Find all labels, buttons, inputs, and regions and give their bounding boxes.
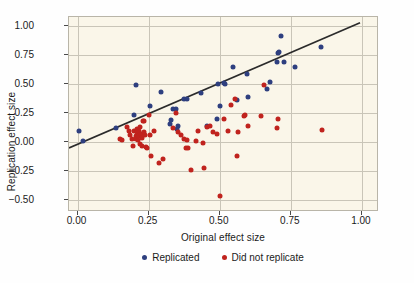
data-point-did-not-replicate (233, 96, 238, 101)
data-point-replicated (264, 86, 269, 91)
legend-dot-did-not-replicate-icon (222, 255, 227, 260)
x-tick-label: 0.50 (196, 215, 242, 226)
data-point-did-not-replicate (200, 140, 205, 145)
data-point-replicated (185, 96, 190, 101)
scatter-plot-figure: Replication effect size 1.000.750.500.25… (0, 0, 414, 283)
x-tick-label: 1.00 (338, 215, 384, 226)
data-point-replicated (244, 71, 249, 76)
data-point-replicated (81, 138, 86, 143)
data-point-did-not-replicate (146, 112, 151, 117)
x-tick-label: 0.25 (125, 215, 171, 226)
y-tick-label: 0.25 (0, 107, 34, 118)
data-point-did-not-replicate (229, 102, 234, 107)
data-point-did-not-replicate (145, 145, 150, 150)
data-point-did-not-replicate (141, 118, 146, 123)
data-point-replicated (246, 94, 251, 99)
data-point-replicated (230, 65, 235, 70)
data-point-did-not-replicate (217, 193, 222, 198)
data-point-did-not-replicate (152, 129, 157, 134)
data-point-did-not-replicate (202, 166, 207, 171)
y-tick-label: −0.50 (0, 194, 34, 205)
data-point-did-not-replicate (196, 129, 201, 134)
x-tick-mark (148, 211, 149, 215)
data-point-did-not-replicate (274, 125, 279, 130)
data-point-did-not-replicate (214, 131, 219, 136)
x-tick-mark (361, 211, 362, 215)
data-point-did-not-replicate (276, 116, 281, 121)
data-point-did-not-replicate (246, 123, 251, 128)
data-point-replicated (216, 82, 221, 87)
data-point-did-not-replicate (236, 130, 241, 135)
data-point-replicated (148, 103, 153, 108)
data-point-did-not-replicate (222, 116, 227, 121)
data-point-did-not-replicate (234, 154, 239, 159)
data-point-replicated (76, 128, 81, 133)
legend-label-did-not-replicate: Did not replicate (232, 252, 304, 263)
x-tick-mark (219, 211, 220, 215)
y-tick-label: 0.75 (0, 49, 34, 60)
x-tick-label: 0.75 (267, 215, 313, 226)
data-point-replicated (199, 91, 204, 96)
data-point-did-not-replicate (173, 110, 178, 115)
data-point-replicated (223, 81, 228, 86)
data-point-did-not-replicate (261, 82, 266, 87)
data-point-replicated (293, 65, 298, 70)
x-tick-label: 0.00 (54, 215, 100, 226)
x-axis-title: Original effect size (68, 232, 378, 243)
data-point-replicated (281, 59, 286, 64)
y-tick-label: −0.25 (0, 165, 34, 176)
y-tick-label: 0.50 (0, 78, 34, 89)
data-point-did-not-replicate (189, 167, 194, 172)
data-point-replicated (169, 117, 174, 122)
data-point-replicated (274, 59, 279, 64)
legend-item-did-not-replicate[interactable]: Did not replicate (222, 252, 304, 263)
data-point-did-not-replicate (243, 113, 248, 118)
data-point-replicated (132, 112, 137, 117)
y-tick-label: 1.00 (0, 20, 34, 31)
x-tick-mark (290, 211, 291, 215)
data-point-did-not-replicate (130, 144, 135, 149)
data-point-did-not-replicate (258, 114, 263, 119)
legend-label-replicated: Replicated (152, 252, 199, 263)
x-tick-mark (77, 211, 78, 215)
data-point-did-not-replicate (149, 153, 154, 158)
data-point-did-not-replicate (207, 123, 212, 128)
data-point-did-not-replicate (193, 139, 198, 144)
data-point-did-not-replicate (170, 126, 175, 131)
y-tick-label: 0.00 (0, 136, 34, 147)
data-point-did-not-replicate (119, 138, 124, 143)
data-point-replicated (113, 126, 118, 131)
data-point-replicated (159, 89, 164, 94)
data-point-replicated (277, 50, 282, 55)
data-point-replicated (278, 34, 283, 39)
data-point-replicated (318, 44, 323, 49)
data-point-did-not-replicate (186, 146, 191, 151)
legend-dot-replicated-icon (142, 255, 147, 260)
data-point-did-not-replicate (320, 127, 325, 132)
legend-item-replicated[interactable]: Replicated (142, 252, 199, 263)
data-point-replicated (133, 83, 138, 88)
data-point-did-not-replicate (156, 160, 161, 165)
plot-area (68, 16, 378, 211)
data-point-did-not-replicate (185, 138, 190, 143)
data-point-replicated (176, 123, 181, 128)
data-point-did-not-replicate (160, 156, 165, 161)
data-points (69, 17, 377, 210)
data-point-replicated (214, 116, 219, 121)
data-point-replicated (217, 103, 222, 108)
data-point-did-not-replicate (226, 128, 231, 133)
data-point-replicated (267, 80, 272, 85)
chart-legend: Replicated Did not replicate (68, 252, 378, 263)
